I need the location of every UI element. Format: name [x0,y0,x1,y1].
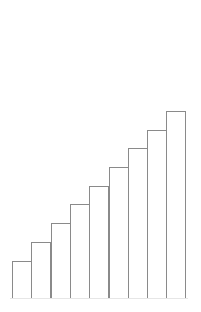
bar-5 [89,186,109,298]
bar-3 [51,223,71,298]
bar-9 [166,111,186,298]
x-baseline [10,298,188,299]
bar-chart [0,0,201,312]
bar-6 [109,167,129,298]
bar-4 [70,204,90,298]
bar-7 [128,148,148,298]
bar-8 [147,130,167,298]
bar-2 [31,242,51,298]
bar-1 [12,261,32,298]
